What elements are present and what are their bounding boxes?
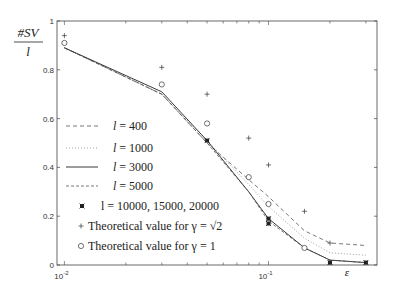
marker-plus [159,65,164,70]
y-tick-label: 1 [50,17,55,26]
marker-asterisk [266,216,271,221]
marker-circle [302,245,307,250]
marker-plus [205,92,210,97]
x-tick-exponent: -2 [63,270,69,276]
legend-marker-plus [79,224,84,229]
legend-label: Theoretical value for γ = √2 [88,219,222,233]
legend-label: l = 5000 [113,179,153,193]
x-axis-label: ε [345,266,350,278]
y-tick-label: 0.6 [43,115,55,124]
legend-val: = 400 [116,119,147,133]
marker-asterisk [205,138,210,143]
marker-plus [62,33,67,38]
series-line-400 [64,48,366,246]
marker-asterisk [363,260,368,265]
y-label-denominator: l [26,44,30,59]
marker-circle [62,40,67,45]
x-tick-label: 10-1 [258,270,273,281]
legend-val: = 5000 [116,179,153,193]
legend-marker-asterisk [80,204,85,209]
legend-label: l = 400 [113,119,147,133]
legend-label: l = 3000 [113,160,153,174]
marker-plus [266,162,271,167]
y-tick-label: 0.4 [43,163,55,172]
legend-label: l = 10000, 15000, 20000 [101,199,219,213]
marker-circle [204,121,209,126]
marker-circle [246,175,251,180]
marker-plus [327,241,332,246]
y-tick-label: 0.2 [43,212,55,221]
legend: l = 400l = 1000l = 3000l = 5000l = 10000… [66,119,222,253]
marker-plus [302,209,307,214]
marker-asterisk [327,260,332,265]
legend-val: = 3000 [116,160,153,174]
marker-circle [159,82,164,87]
y-tick-label: 0.8 [43,66,55,75]
x-tick-label: 10-2 [54,270,69,281]
legend-label: l = 1000 [113,141,153,155]
y-tick-label: 0 [50,261,55,270]
marker-plus [246,136,251,141]
marker-circle [266,201,271,206]
y-label-numerator: #SV [18,25,41,40]
marker-asterisk [266,221,271,226]
legend-label: Theoretical value for γ = 1 [88,239,216,253]
legend-marker-circle [78,243,83,248]
chart: 00.20.40.60.8110-210-1 #SV l ε l = 400l … [0,0,395,290]
y-axis-label: #SV l [14,25,43,59]
x-tick-exponent: -1 [267,270,273,276]
legend-val: = 1000 [116,141,153,155]
